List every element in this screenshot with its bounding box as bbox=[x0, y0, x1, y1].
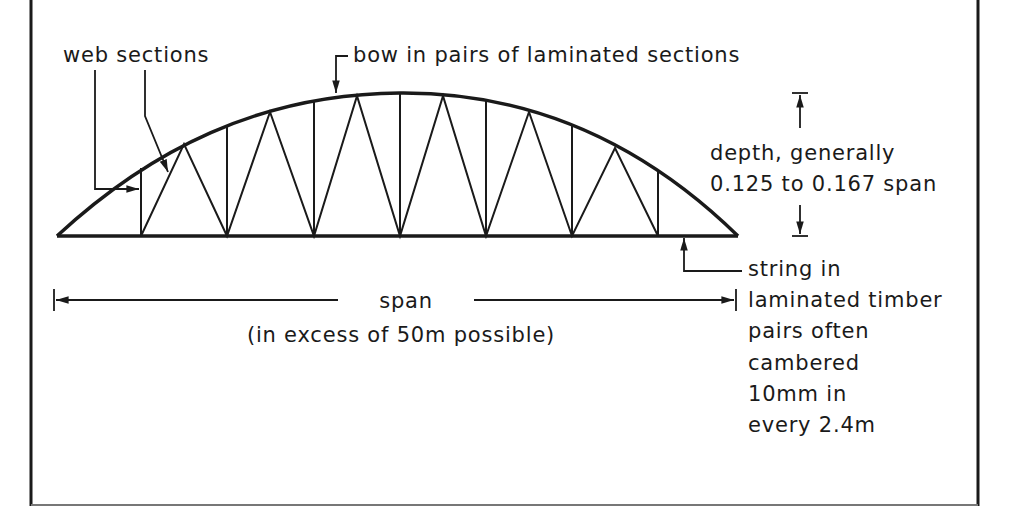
string-label-line: string in bbox=[748, 257, 841, 281]
bowstring-truss-diagram: web sections bow in pairs of laminated s… bbox=[0, 0, 1020, 508]
string-label-line: pairs often bbox=[748, 319, 869, 343]
web-sections-label: web sections bbox=[63, 43, 209, 67]
string-label-line: laminated timber bbox=[748, 288, 943, 312]
string-label-line: every 2.4m bbox=[748, 413, 876, 437]
string-label-line: 10mm in bbox=[748, 382, 847, 406]
span-note: (in excess of 50m possible) bbox=[247, 323, 555, 347]
string-label: string in laminated timber pairs often c… bbox=[748, 257, 943, 437]
bow-leader bbox=[336, 56, 348, 93]
web-verticals bbox=[141, 93, 658, 236]
bow-top-chord bbox=[57, 93, 738, 236]
depth-label-line2: 0.125 to 0.167 span bbox=[710, 172, 937, 196]
web-sections-leader-1 bbox=[95, 70, 139, 189]
span-label: span bbox=[379, 289, 433, 313]
bow-label: bow in pairs of laminated sections bbox=[353, 43, 740, 67]
depth-label-line1: depth, generally bbox=[710, 141, 895, 165]
string-leader bbox=[684, 238, 742, 271]
string-label-line: cambered bbox=[748, 351, 860, 375]
